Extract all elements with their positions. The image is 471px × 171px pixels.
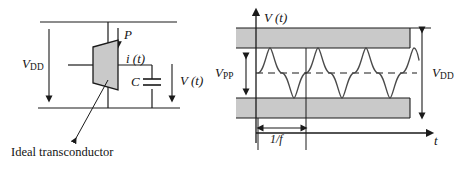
capacitor-label: C bbox=[131, 74, 140, 90]
upper-forbidden-band bbox=[236, 28, 410, 48]
power-label: P bbox=[124, 27, 132, 43]
vpp-label: VPP bbox=[215, 65, 234, 81]
lower-forbidden-band bbox=[236, 98, 410, 118]
cap-voltage-label: V (t) bbox=[180, 73, 203, 89]
transconductor-trapezoid-icon bbox=[93, 40, 118, 90]
x-axis-label: t bbox=[434, 133, 438, 149]
ideal-transconductor-callout-label: Ideal transconductor bbox=[11, 145, 113, 160]
y-axis-label: V (t) bbox=[264, 10, 287, 26]
callout-arrow-icon bbox=[75, 80, 108, 140]
current-label: i (t) bbox=[126, 51, 145, 67]
figure-root: VDD P i (t) C V (t) Ideal transconductor bbox=[0, 0, 471, 171]
supply-voltage-label: VDD bbox=[22, 56, 44, 72]
period-label: 1/f bbox=[270, 132, 283, 147]
vdd-label: VDD bbox=[432, 65, 454, 81]
